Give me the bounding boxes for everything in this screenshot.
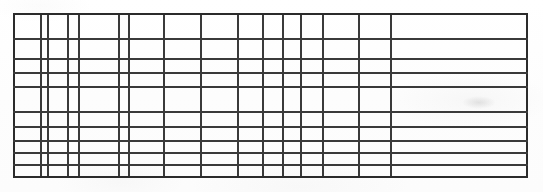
table-cell[interactable] [237,72,262,86]
table-cell[interactable] [322,126,358,140]
table-cell[interactable] [200,126,237,140]
table-cell[interactable] [358,126,390,140]
table-cell[interactable] [322,111,358,126]
table-cell[interactable] [47,72,67,86]
table-cell[interactable] [300,111,322,126]
table-cell[interactable] [358,86,390,111]
table-cell[interactable] [13,38,40,58]
table-cell[interactable] [358,38,390,58]
row-divider [13,164,528,166]
table-cell[interactable] [200,58,237,72]
table-cell[interactable] [13,126,40,140]
table-border-horizontal [13,176,528,178]
table-cell[interactable] [47,86,67,111]
table-cell[interactable] [163,38,200,58]
table-cell[interactable] [358,58,390,72]
table-cell[interactable] [13,72,40,86]
table-cell[interactable] [163,126,200,140]
table-cell[interactable] [300,72,322,86]
table-cell[interactable] [300,38,322,58]
table-cell[interactable] [262,58,282,72]
table-cell[interactable] [262,126,282,140]
table-cell[interactable] [262,38,282,58]
table-cell[interactable] [237,13,262,38]
table-cell[interactable] [282,126,300,140]
table-cell[interactable] [358,13,390,38]
table-cell[interactable] [200,111,237,126]
table-cell[interactable] [282,13,300,38]
table-cell[interactable] [282,58,300,72]
table-cell[interactable] [237,58,262,72]
table-cell[interactable] [163,86,200,111]
table-cell[interactable] [200,38,237,58]
row-divider [13,126,528,128]
table-cell[interactable] [163,13,200,38]
table-grid[interactable] [0,0,543,192]
table-cell[interactable] [322,58,358,72]
table-cell[interactable] [78,86,118,111]
row-divider [13,140,528,142]
table-cell[interactable] [322,86,358,111]
table-cell[interactable] [200,13,237,38]
table-cell[interactable] [390,58,526,72]
row-divider [13,111,528,113]
table-cell[interactable] [262,111,282,126]
table-cell[interactable] [237,86,262,111]
table-cell[interactable] [322,38,358,58]
table-cell[interactable] [282,72,300,86]
table-cell[interactable] [300,86,322,111]
table-cell[interactable] [262,86,282,111]
table-cell[interactable] [78,126,118,140]
row-divider [13,72,528,74]
table-cell[interactable] [322,13,358,38]
table-cell[interactable] [300,13,322,38]
table-cell[interactable] [47,38,67,58]
table-cell[interactable] [78,13,118,38]
table-cell[interactable] [358,111,390,126]
table-cell[interactable] [47,111,67,126]
table-cell[interactable] [282,86,300,111]
table-cell[interactable] [200,86,237,111]
table-cell[interactable] [237,111,262,126]
table-cell[interactable] [128,126,163,140]
table-cell[interactable] [128,111,163,126]
table-cell[interactable] [237,126,262,140]
table-cell[interactable] [282,111,300,126]
table-cell[interactable] [78,111,118,126]
table-cell[interactable] [163,58,200,72]
table-cell[interactable] [390,38,526,58]
table-cell[interactable] [163,111,200,126]
table-cell[interactable] [300,126,322,140]
table-cell[interactable] [163,72,200,86]
table-cell[interactable] [390,111,526,126]
table-cell[interactable] [262,13,282,38]
table-cell[interactable] [200,72,237,86]
table-cell[interactable] [322,72,358,86]
table-cell[interactable] [282,38,300,58]
table-cell[interactable] [47,126,67,140]
table-cell[interactable] [390,126,526,140]
table-cell[interactable] [237,38,262,58]
table-cell[interactable] [78,38,118,58]
table-border-horizontal [13,13,528,15]
table-cell[interactable] [128,38,163,58]
table-cell[interactable] [300,58,322,72]
table-cell[interactable] [13,13,40,38]
table-cell[interactable] [13,111,40,126]
table-cell[interactable] [390,13,526,38]
table-cell[interactable] [78,72,118,86]
table-cell[interactable] [390,86,526,111]
table-cell[interactable] [128,72,163,86]
table-cell[interactable] [47,58,67,72]
table-cell[interactable] [128,86,163,111]
table-cell[interactable] [390,72,526,86]
row-divider [13,86,528,88]
table-cell[interactable] [47,13,67,38]
table-cell[interactable] [262,72,282,86]
table-cell[interactable] [128,58,163,72]
table-cell[interactable] [13,86,40,111]
table-cell[interactable] [13,58,40,72]
table-cell[interactable] [78,58,118,72]
table-cell[interactable] [128,13,163,38]
table-cell[interactable] [358,72,390,86]
